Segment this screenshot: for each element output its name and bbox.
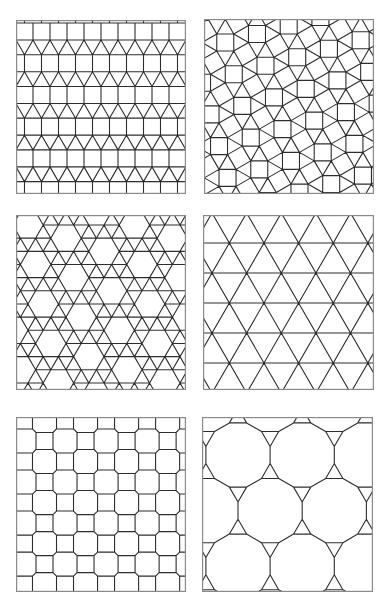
trihexagonal-edges: [203, 215, 374, 390]
truncated-square-frame: [17, 418, 186, 592]
elongated-triangular-edges: [16, 20, 186, 194]
tiling-panel-trihexagonal: [203, 215, 374, 390]
snub-hexagonal-tiling-graphic: [16, 215, 186, 390]
truncated-hexagonal-edges: [202, 417, 373, 592]
trihexagonal-tiling-graphic: [203, 215, 374, 390]
tiling-panel-truncated-square: [16, 417, 186, 592]
tiling-panel-truncated-hexagonal: [202, 417, 373, 592]
truncated-square-tiling-graphic: [16, 417, 186, 592]
tiling-panel-snub-square: [204, 19, 374, 194]
snub-square-edges: [204, 19, 374, 194]
elongated-triangular-tiling-graphic: [16, 20, 186, 194]
snub-square-tiling-graphic: [204, 19, 374, 194]
snub-hexagonal-edges: [16, 215, 186, 390]
tiling-panel-elongated-triangular: [16, 20, 186, 194]
snub-hexagonal-frame: [17, 216, 186, 390]
truncated-square-edges: [16, 417, 186, 592]
snub-square-frame: [205, 20, 374, 194]
truncated-hexagonal-tiling-graphic: [202, 417, 373, 592]
truncated-hexagonal-frame: [203, 418, 373, 592]
tiling-panel-snub-hexagonal: [16, 215, 186, 390]
